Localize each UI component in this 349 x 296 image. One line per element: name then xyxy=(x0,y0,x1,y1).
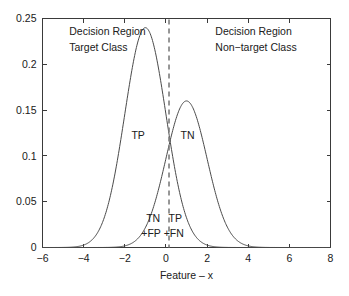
annotation-tn-fp-line1: TN xyxy=(146,212,160,224)
x-tick-label: 6 xyxy=(286,252,292,264)
y-tick-label: 0 xyxy=(31,241,37,253)
probability-density-plot: −6−4−202468 00.050.10.150.20.25 Feature … xyxy=(0,0,349,296)
annotation-left-decision-region-line2: Target Class xyxy=(69,41,127,53)
x-tick-label: 4 xyxy=(245,252,251,264)
x-tick-label: 2 xyxy=(204,252,210,264)
annotation-tp: TP xyxy=(131,129,144,141)
x-tick-label: −6 xyxy=(37,252,49,264)
figure-container: −6−4−202468 00.050.10.150.20.25 Feature … xyxy=(0,0,349,296)
x-tick-label: −2 xyxy=(119,252,131,264)
annotation-tn: TN xyxy=(181,129,195,141)
x-axis-label: Feature – x xyxy=(160,269,214,281)
annotation-right-decision-region-line1: Decision Region xyxy=(215,25,292,37)
y-tick-label: 0.2 xyxy=(22,58,37,70)
annotation-right-decision-region-line2: Non−target Class xyxy=(215,41,296,53)
x-tick-label: 8 xyxy=(328,252,334,264)
annotation-tp-fn-line2: +FN xyxy=(164,227,184,239)
x-tick-label: 0 xyxy=(163,252,169,264)
y-tick-label: 0.15 xyxy=(16,104,37,116)
x-tick-label: −4 xyxy=(78,252,90,264)
y-tick-label: 0.25 xyxy=(16,12,37,24)
annotation-tp-fn-line1: TP xyxy=(168,212,181,224)
y-tick-label: 0.1 xyxy=(22,150,37,162)
annotation-tn-fp-line2: +FP xyxy=(141,227,161,239)
y-tick-label: 0.05 xyxy=(16,195,37,207)
annotation-left-decision-region-line1: Decision Region xyxy=(69,25,146,37)
